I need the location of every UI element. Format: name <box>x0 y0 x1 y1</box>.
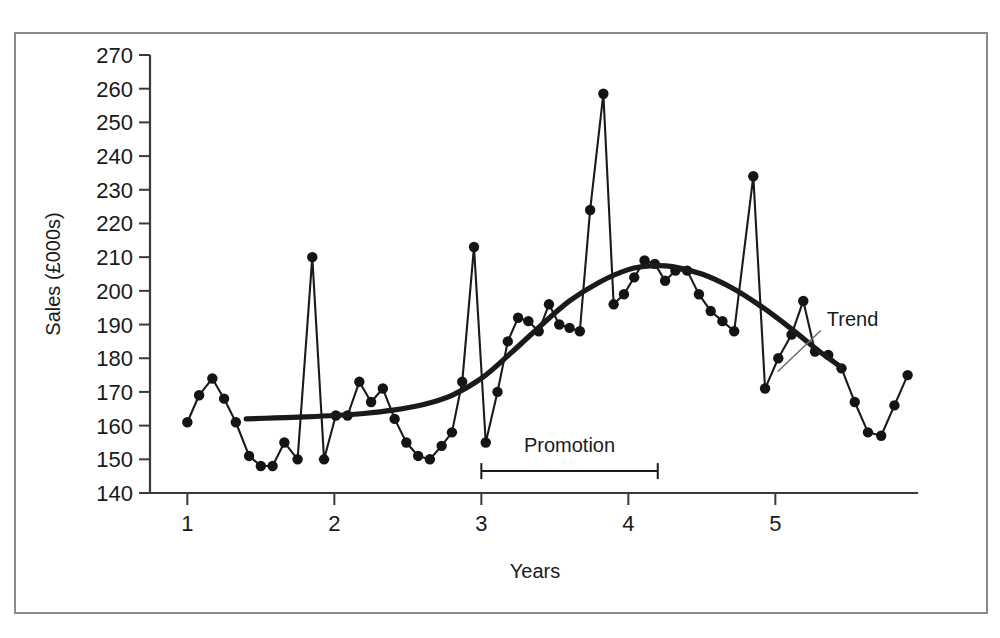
data-point <box>401 437 411 447</box>
y-tick-label: 140 <box>96 481 133 506</box>
data-point <box>307 252 317 262</box>
data-point <box>564 323 574 333</box>
y-tick-label: 230 <box>96 178 133 203</box>
y-tick-label: 250 <box>96 110 133 135</box>
x-tick-label: 4 <box>622 511 634 536</box>
y-axis-tick-labels: 1401501601701801902002102202302402502602… <box>96 43 133 506</box>
data-point <box>436 441 446 451</box>
data-point <box>319 454 329 464</box>
y-tick-label: 190 <box>96 313 133 338</box>
data-point <box>554 319 564 329</box>
data-point <box>279 437 289 447</box>
data-point <box>231 417 241 427</box>
data-point <box>354 377 364 387</box>
y-tick-label: 220 <box>96 211 133 236</box>
data-point <box>244 451 254 461</box>
y-axis-tick-marks <box>139 55 150 493</box>
data-point <box>850 397 860 407</box>
x-axis-title: Years <box>510 560 560 582</box>
data-point <box>447 427 457 437</box>
data-point <box>413 451 423 461</box>
y-axis-title: Sales (£000s) <box>42 212 64 335</box>
figure-container: 1401501601701801902002102202302402502602… <box>0 0 1000 638</box>
data-point <box>207 373 217 383</box>
data-point <box>503 336 513 346</box>
y-tick-label: 240 <box>96 144 133 169</box>
data-point <box>389 414 399 424</box>
data-point <box>378 383 388 393</box>
x-tick-label: 2 <box>328 511 340 536</box>
x-tick-label: 5 <box>769 511 781 536</box>
data-point <box>798 296 808 306</box>
data-point <box>598 89 608 99</box>
x-axis-tick-labels: 12345 <box>181 511 781 536</box>
y-tick-label: 210 <box>96 245 133 270</box>
data-point <box>523 316 533 326</box>
data-point <box>748 171 758 181</box>
data-point <box>182 417 192 427</box>
data-point <box>425 454 435 464</box>
sales-series-line <box>187 94 907 466</box>
x-axis-tick-marks <box>187 493 775 505</box>
data-point <box>608 299 618 309</box>
y-tick-label: 160 <box>96 414 133 439</box>
data-point <box>366 397 376 407</box>
sales-data-points <box>182 89 913 472</box>
data-point <box>469 242 479 252</box>
data-point <box>544 299 554 309</box>
data-point <box>219 393 229 403</box>
data-point <box>256 461 266 471</box>
data-point <box>481 437 491 447</box>
data-point <box>513 313 523 323</box>
data-point <box>717 316 727 326</box>
y-tick-label: 150 <box>96 447 133 472</box>
data-point <box>876 431 886 441</box>
data-point <box>585 205 595 215</box>
data-point <box>492 387 502 397</box>
y-tick-label: 200 <box>96 279 133 304</box>
promotion-label: Promotion <box>524 434 615 456</box>
trend-label: Trend <box>827 308 879 330</box>
data-point <box>705 306 715 316</box>
promotion-bracket <box>481 463 657 479</box>
data-point <box>194 390 204 400</box>
data-point <box>694 289 704 299</box>
sales-trend-chart: 1401501601701801902002102202302402502602… <box>0 0 1000 638</box>
data-point <box>267 461 277 471</box>
data-point <box>889 400 899 410</box>
y-tick-label: 180 <box>96 346 133 371</box>
data-point <box>902 370 912 380</box>
trend-curve <box>246 266 841 419</box>
data-point <box>292 454 302 464</box>
data-point <box>575 326 585 336</box>
y-tick-label: 170 <box>96 380 133 405</box>
data-point <box>773 353 783 363</box>
data-point <box>760 383 770 393</box>
y-tick-label: 260 <box>96 77 133 102</box>
data-point <box>863 427 873 437</box>
data-point <box>729 326 739 336</box>
y-tick-label: 270 <box>96 43 133 68</box>
x-tick-label: 1 <box>181 511 193 536</box>
data-point <box>629 272 639 282</box>
x-tick-label: 3 <box>475 511 487 536</box>
data-point <box>619 289 629 299</box>
data-point <box>660 276 670 286</box>
